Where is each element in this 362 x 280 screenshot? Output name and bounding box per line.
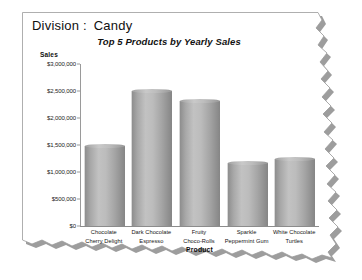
division-label: Division : <box>32 18 87 33</box>
bar-cylinder-top <box>85 144 125 148</box>
x-axis-category-line: Peppermint Gum <box>223 237 271 246</box>
y-axis-tick-label: $1,000,000 <box>47 169 80 175</box>
x-axis-category-label: SparklePeppermint Gum <box>223 228 271 245</box>
bar-cylinder-top <box>180 99 220 103</box>
x-axis-category-line: Chocolate <box>80 228 128 237</box>
y-axis-tick-label: $1,500,000 <box>47 142 80 148</box>
x-axis-title: Product <box>80 246 319 253</box>
bar-0 <box>84 146 125 226</box>
y-axis-title: Sales <box>40 51 58 58</box>
x-axis-category-line: Dark Chocolate <box>128 228 176 237</box>
division-header: Division :Candy <box>32 18 132 33</box>
x-axis-category-line: Fruity <box>175 228 223 237</box>
x-axis-category-label: FruityChoco-Rolls <box>175 228 223 245</box>
bar-4 <box>274 159 315 226</box>
x-axis-category-label: Dark ChocolateEspresso <box>128 228 176 245</box>
division-value: Candy <box>94 18 133 33</box>
bar-2 <box>179 101 220 226</box>
y-axis-tick-label: $500,000 <box>52 196 80 202</box>
chart-title: Top 5 Products by Yearly Sales <box>22 36 316 47</box>
x-axis-category-line: Choco-Rolls <box>175 237 223 246</box>
x-axis-line <box>80 226 319 227</box>
bar-cylinder-top <box>275 157 315 161</box>
y-axis-tick-label: $2,000,000 <box>47 115 80 121</box>
x-axis-category-line: Espresso <box>128 237 176 246</box>
x-axis-category-line: Turtles <box>270 237 318 246</box>
bar-1 <box>131 91 172 226</box>
bar-cylinder-top <box>228 161 268 165</box>
x-axis-category-label: ChocolateCherry Delight <box>80 228 128 245</box>
sales-chart-report: Division :Candy Top 5 Products by Yearly… <box>22 12 340 254</box>
x-axis-category-line: White Chocolate <box>270 228 318 237</box>
x-axis-category-label: White ChocolateTurtles <box>270 228 318 245</box>
y-axis-tick-label: $3,000,000 <box>47 61 80 67</box>
bar-cylinder-top <box>132 89 172 93</box>
bar-3 <box>227 163 268 226</box>
plot-area: $0$500,000$1,000,000$1,500,000$2,000,000… <box>80 64 318 226</box>
x-axis-category-line: Sparkle <box>223 228 271 237</box>
y-axis-tick-label: $0 <box>70 223 80 229</box>
y-axis-tick-label: $2,500,000 <box>47 88 80 94</box>
x-axis-category-line: Cherry Delight <box>80 237 128 246</box>
screenshot-canvas: Division :Candy Top 5 Products by Yearly… <box>0 0 362 280</box>
